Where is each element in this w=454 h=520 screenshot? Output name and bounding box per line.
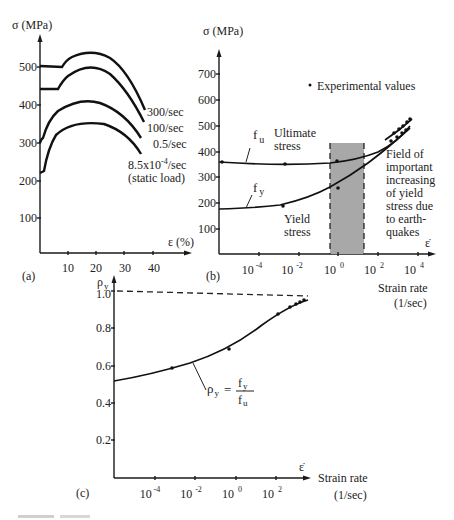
tick-label: 0.2 [96,433,111,447]
earthquake-field-note: Field of important increasing of yield s… [386,147,435,239]
panel-c-x-axis-symbol: ε̇ [299,460,305,474]
panel-a-x-axis-label: ε (%) [168,235,194,249]
tick-label: 10-2 [180,485,202,501]
tick-label: 100 [324,261,344,277]
tick-label: 10-2 [281,261,303,277]
note-line: important [386,160,433,174]
panel-c-x-axis-title: Strain rate [318,471,368,485]
panel-c: ρy 1.0 0.8 0.6 0.4 0.2 10-4 10-2 100 102… [76,275,368,502]
tick-label: 0.8 [96,321,111,335]
caption-fragment [18,515,54,518]
panel-c-x-arrow-icon [303,476,311,481]
panel-a-y-arrow-icon [38,34,43,42]
tick-label: 102 [364,261,384,277]
note-line: Field of [386,147,424,161]
formula-leader-line [193,363,206,390]
panel-a-y-ticks: 500 400 300 200 100 [19,60,41,225]
tick-label: 600 [198,93,216,107]
panel-a-y-axis-label: σ (MPa) [12,18,52,32]
panel-b-x-axis-title: Strain rate [378,281,428,295]
curve-static-load [40,123,141,173]
tick-label: 0.6 [96,359,111,373]
tick-label: 102 [262,485,282,501]
fy-label-line1: Yield [284,212,310,226]
panel-b: σ (MPa) 700 600 500 400 300 200 100 10-4… [198,24,436,310]
curve-rho-y [114,300,308,381]
panel-c-y-ticks: 1.0 0.8 0.6 0.4 0.2 [96,287,115,447]
legend-marker-icon [309,84,312,87]
panel-b-x-arrow-icon [428,252,436,257]
tick-label: 10-4 [140,485,161,501]
reference-line-1-0 [117,291,308,296]
legend-static-load: (static load) [128,171,185,185]
legend-100-per-sec: 100/sec [147,121,184,135]
rho-y-formula: ρy = fy fu [207,376,254,408]
legend-experimental-values: Experimental values [317,79,416,93]
figure-canvas: σ (MPa) 500 400 300 200 100 10 20 30 40 … [0,0,454,520]
fu-symbol: fu [253,127,264,145]
tick-label: 104 [404,261,424,277]
panel-c-label: (c) [76,486,89,500]
panel-b-y-ticks: 700 600 500 400 300 200 100 [198,67,220,236]
panel-a-label: (a) [22,269,35,283]
panel-b-y-axis-label: σ (MPa) [203,24,243,38]
caption-fragment [60,515,90,518]
fu-leader-line [246,148,250,162]
tick-label: 30 [119,261,131,275]
tick-label: 1.0 [96,287,111,301]
tick-label: 400 [198,145,216,159]
panel-b-x-axis-unit: (1/sec) [394,296,427,310]
formula-equals: = [224,382,231,397]
note-line: to earth- [386,212,426,226]
tick-label: 40 [148,261,160,275]
note-line: quakes [386,225,420,239]
panel-b-label: (b) [206,269,220,283]
note-line: increasing [386,173,435,187]
tick-label: 100 [222,485,242,501]
tick-label: 500 [198,119,216,133]
earthquake-strain-rate-band [330,143,364,254]
panel-a-legend: 300/sec 100/sec 0.5/sec 8.5x10-4/sec (st… [128,105,187,185]
panel-b-x-ticks: 10-4 10-2 100 102 104 [242,252,424,277]
tick-label: 300 [198,170,216,184]
note-line: stress due [386,199,433,213]
panel-b-x-axis-symbol: ε̇ [425,236,431,250]
panel-c-y-arrow-icon [112,275,117,283]
tick-label: 400 [19,98,37,112]
panel-a-x-arrow-icon [184,251,192,256]
tick-label: 700 [198,67,216,81]
fy-label-line2: stress [284,225,311,239]
curve-yield-stress [219,128,410,209]
note-line: of yield [386,186,423,200]
legend-300-per-sec: 300/sec [147,105,184,119]
fy-leader-line [246,195,252,208]
tick-label: 10 [62,261,74,275]
fy-symbol: fy [253,180,264,197]
tick-label: 500 [19,60,37,74]
panel-c-x-axis-unit: (1/sec) [334,488,367,502]
panel-a: σ (MPa) 500 400 300 200 100 10 20 30 40 … [12,18,194,283]
tick-label: 10-4 [242,261,263,277]
tick-label: 100 [19,211,37,225]
formula-denominator: fu [238,393,248,408]
panel-b-y-arrow-icon [217,49,222,57]
tick-label: 200 [198,196,216,210]
panel-a-x-ticks: 10 20 30 40 [62,251,160,275]
fu-label-line1: Ultimate [274,126,316,140]
formula-lhs: ρy [207,381,220,398]
tick-label: 20 [90,261,102,275]
legend-static-rate: 8.5x10-4/sec [128,157,186,172]
formula-numerator: fy [238,376,248,391]
tick-label: 300 [19,136,37,150]
tick-label: 0.4 [96,396,111,410]
tick-label: 100 [198,222,216,236]
tick-label: 200 [19,174,37,188]
panel-c-x-ticks: 10-4 10-2 100 102 [140,476,282,501]
legend-0-5-per-sec: 0.5/sec [153,137,187,151]
fu-label-line2: stress [274,139,301,153]
